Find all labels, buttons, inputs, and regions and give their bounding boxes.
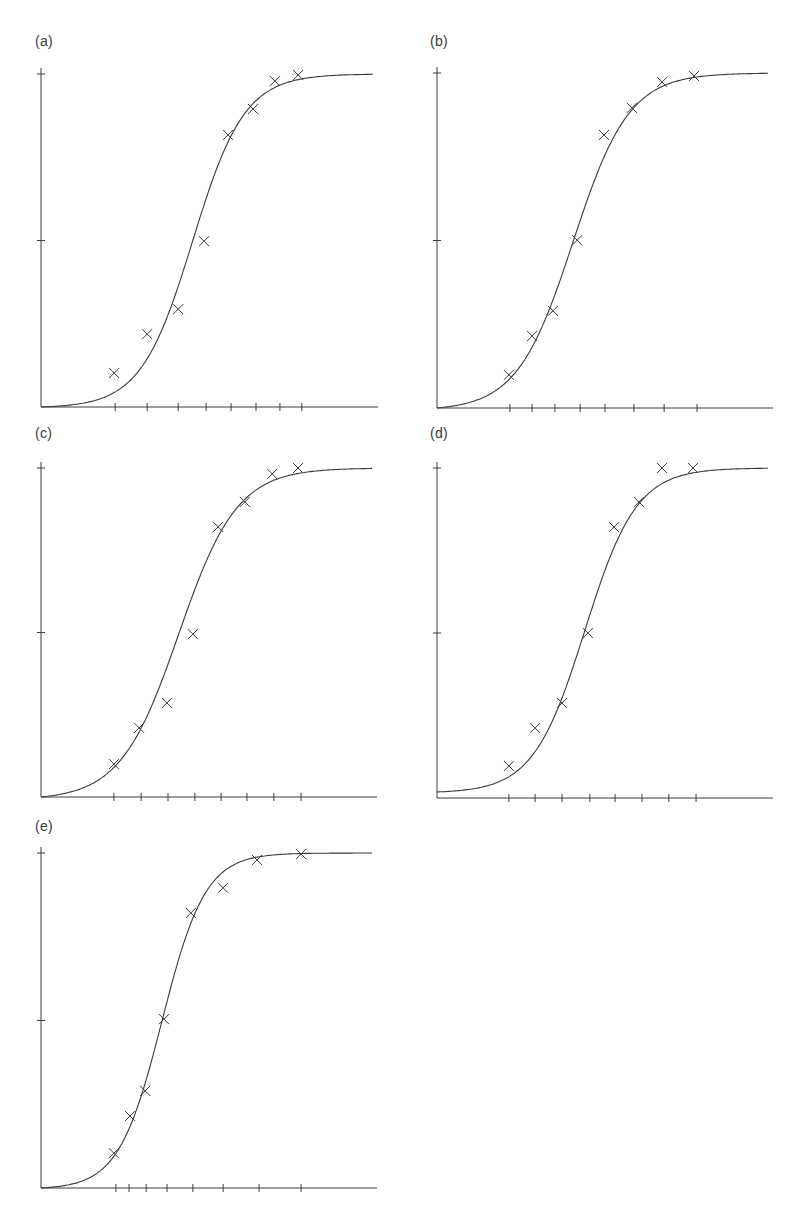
data-point-x-marker [657,463,667,473]
data-point-x-marker [218,883,228,893]
panel-e: (e) [0,0,400,1212]
data-point-x-marker [186,908,196,918]
data-point-x-marker [159,1014,169,1024]
data-point-x-marker [530,723,540,733]
data-point-x-marker [252,855,262,865]
fitted-curve [437,468,768,792]
data-point-x-marker [140,1086,150,1096]
data-point-x-marker [688,463,698,473]
plot-e [0,0,400,1212]
data-point-x-marker [609,522,619,532]
fitted-curve [41,853,372,1188]
data-point-x-marker [125,1111,135,1121]
data-point-x-marker [634,497,644,507]
data-point-x-marker [504,761,514,771]
